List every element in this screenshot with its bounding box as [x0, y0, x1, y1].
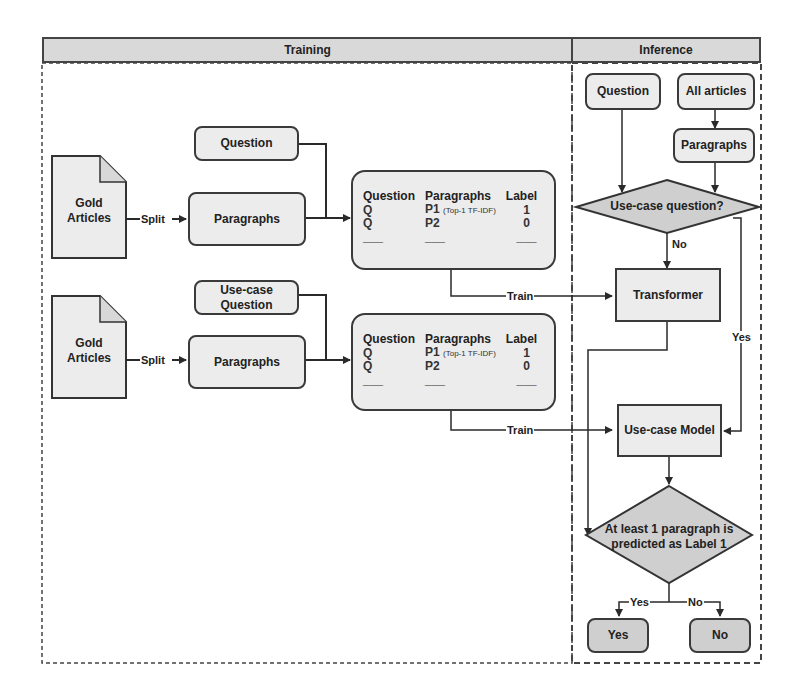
cell-label: ___ — [506, 373, 547, 386]
table-row: ___ ___ ___ — [363, 373, 547, 386]
branch-yes-label: Yes — [629, 596, 650, 608]
paragraph-note: (Top-1 TF-IDF) — [443, 349, 496, 358]
yes-branch-label: Yes — [731, 331, 752, 343]
cell-label: ___ — [506, 230, 547, 243]
diagram-canvas: Training Inference Gold Articles Split Q… — [0, 0, 799, 691]
training-header: Training — [42, 37, 573, 63]
training-table-1: Question Paragraphs Label Q P1 (Top-1 TF… — [351, 170, 556, 270]
question-box-training-1: Question — [194, 126, 299, 161]
cell-question: Q — [363, 346, 425, 360]
cell-paragraph: ___ — [425, 373, 506, 386]
transformer-box: Transformer — [615, 268, 721, 322]
table-row: ___ ___ ___ — [363, 230, 547, 243]
training-table-2-grid: Question Paragraphs Label Q P1 (Top-1 TF… — [363, 333, 547, 386]
branch-no-label: No — [687, 596, 704, 608]
usecase-decision: Use-case question? — [596, 199, 738, 214]
split-label-2: Split — [140, 354, 166, 366]
cell-paragraph: P1 (Top-1 TF-IDF) — [425, 346, 506, 360]
cell-question: ___ — [363, 373, 425, 386]
column-header-label: Label — [506, 333, 547, 346]
split-label-1: Split — [140, 213, 166, 225]
table-row: Q P1 (Top-1 TF-IDF) 1 — [363, 346, 547, 360]
no-branch-label: No — [671, 238, 688, 250]
usecase-model-box: Use-case Model — [617, 404, 722, 457]
final-decision: At least 1 paragraph is predicted as Lab… — [604, 522, 734, 552]
inference-header: Inference — [571, 37, 761, 63]
question-box-inference: Question — [585, 73, 661, 110]
paragraph-id: P2 — [425, 359, 440, 373]
training-table-2: Question Paragraphs Label Q P1 (Top-1 TF… — [351, 313, 556, 411]
usecase-question-box-training: Use-case Question — [194, 280, 299, 315]
train-label-1: Train — [506, 290, 534, 302]
paragraphs-box-training-1: Paragraphs — [188, 192, 306, 246]
output-yes-box: Yes — [587, 618, 649, 653]
cell-paragraph: ___ — [425, 230, 506, 243]
training-table-1-grid: Question Paragraphs Label Q P1 (Top-1 TF… — [363, 190, 547, 243]
output-no-box: No — [689, 618, 751, 653]
table-row: Q P1 (Top-1 TF-IDF) 1 — [363, 203, 547, 217]
gold-articles-doc-1: Gold Articles — [52, 196, 126, 226]
paragraph-note: (Top-1 TF-IDF) — [443, 206, 496, 215]
cell-question: Q — [363, 203, 425, 217]
cell-label: 1 — [506, 203, 547, 217]
cell-paragraph: P1 (Top-1 TF-IDF) — [425, 203, 506, 217]
paragraphs-box-training-2: Paragraphs — [188, 335, 306, 389]
paragraph-id: P1 — [425, 202, 440, 216]
column-header-question: Question — [363, 190, 425, 203]
gold-articles-doc-2: Gold Articles — [52, 336, 126, 366]
paragraphs-box-inference: Paragraphs — [673, 128, 755, 163]
column-header-question: Question — [363, 333, 425, 346]
cell-question: ___ — [363, 230, 425, 243]
column-header-label: Label — [506, 190, 547, 203]
all-articles-box: All articles — [677, 73, 755, 110]
paragraph-id: P1 — [425, 345, 440, 359]
paragraph-id: P2 — [425, 216, 440, 230]
cell-label: 1 — [506, 346, 547, 360]
train-label-2: Train — [506, 424, 534, 436]
